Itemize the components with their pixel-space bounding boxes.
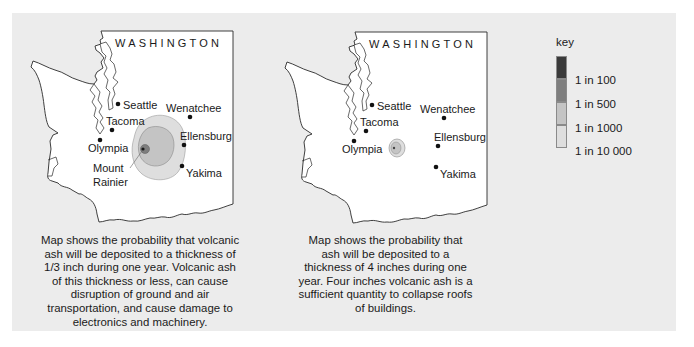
key-swatch-1-in-100 bbox=[556, 56, 567, 79]
caption-left: Map shows the probability that volcanic … bbox=[40, 234, 240, 329]
city-label-wenatchee: Wenatchee bbox=[166, 102, 221, 114]
city-label-wenatchee: Wenatchee bbox=[420, 103, 475, 115]
zone-1-in-1000 bbox=[391, 142, 401, 154]
city-dot-wenatchee bbox=[188, 115, 193, 120]
volcano-label-line2: Rainier bbox=[93, 176, 128, 188]
key-swatch-1-in-500 bbox=[556, 79, 567, 102]
mount-rainier-marker bbox=[393, 147, 395, 149]
mount-rainier-marker bbox=[141, 147, 144, 150]
map-key: key 1 in 100 1 in 500 1 in 1000 1 in 10 … bbox=[551, 36, 671, 166]
city-label-ellensburg: Ellensburg bbox=[180, 130, 232, 142]
city-dot-tacoma bbox=[110, 128, 115, 133]
caption-right: Map shows the probability that ash will … bbox=[298, 234, 473, 316]
city-label-seattle: Seattle bbox=[123, 99, 157, 111]
volcano-label-line1: Mount bbox=[93, 162, 124, 174]
city-label-seattle: Seattle bbox=[377, 100, 411, 112]
key-label-1-in-1000: 1 in 1000 bbox=[575, 122, 622, 134]
city-label-tacoma: Tacoma bbox=[106, 115, 145, 127]
city-label-yakima: Yakima bbox=[440, 168, 477, 180]
key-label-1-in-500: 1 in 500 bbox=[575, 98, 616, 110]
city-dot-seattle bbox=[116, 102, 121, 107]
city-dot-ellensburg bbox=[182, 143, 187, 148]
city-label-yakima: Yakima bbox=[186, 167, 223, 179]
city-dot-tacoma bbox=[364, 129, 369, 134]
city-dot-wenatchee bbox=[442, 116, 447, 121]
city-label-olympia: Olympia bbox=[342, 143, 383, 155]
city-label-ellensburg: Ellensburg bbox=[434, 131, 486, 143]
key-label-1-in-10000: 1 in 10 000 bbox=[575, 145, 632, 157]
city-dot-yakima bbox=[180, 164, 185, 169]
city-dot-seattle bbox=[370, 103, 375, 108]
key-swatch-1-in-1000 bbox=[556, 102, 567, 125]
city-label-olympia: Olympia bbox=[88, 142, 129, 154]
city-dot-ellensburg bbox=[436, 144, 441, 149]
map-left: WASHINGTON Seattle Tacoma Olympia Wenatc… bbox=[31, 31, 233, 222]
key-swatch-1-in-10000 bbox=[556, 125, 567, 148]
city-label-tacoma: Tacoma bbox=[360, 116, 399, 128]
state-label: WASHINGTON bbox=[115, 37, 222, 49]
key-label-1-in-100: 1 in 100 bbox=[575, 74, 616, 86]
key-title: key bbox=[556, 36, 574, 48]
map-right: WASHINGTON Seattle Tacoma Olympia Wenatc… bbox=[285, 32, 487, 223]
city-dot-yakima bbox=[434, 165, 439, 170]
state-label: WASHINGTON bbox=[369, 38, 476, 50]
